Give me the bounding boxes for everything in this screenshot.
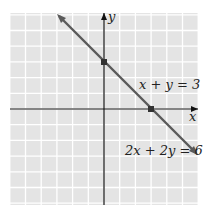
x-axis-label: x	[189, 109, 197, 124]
equation-label-2: 2x + 2y = 6	[124, 143, 203, 158]
graph: y x x + y = 3 2x + 2y = 6	[0, 0, 207, 218]
x-intercept-point	[148, 106, 154, 112]
y-axis-label: y	[107, 9, 116, 24]
equation-label-1: x + y = 3	[139, 77, 200, 92]
y-intercept-point	[101, 59, 107, 65]
